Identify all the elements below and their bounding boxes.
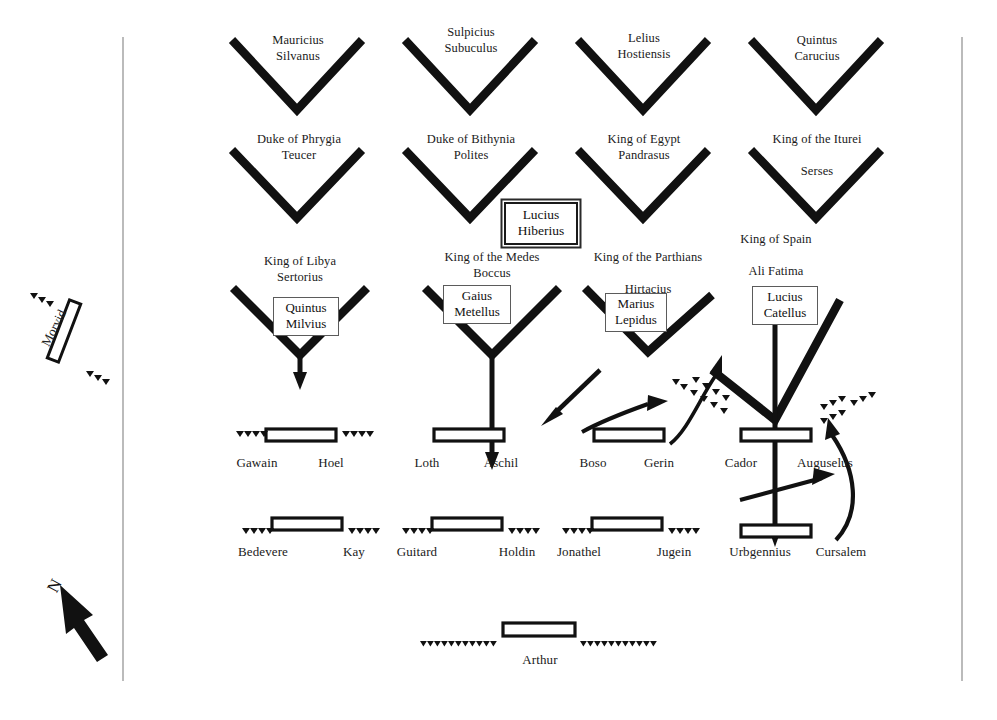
unit-label-guitard: Guitard (382, 544, 452, 560)
unit-label-boso: Boso (564, 455, 622, 471)
unit-label-arthur: Arthur (505, 652, 575, 668)
british-unit-boxes-row2 (272, 518, 811, 537)
unit-label-jonathel: Jonathel (540, 544, 618, 560)
legion-label-mauricius: Mauricius Silvanus (252, 32, 344, 64)
unit-label-holdin: Holdin (486, 544, 548, 560)
supreme-commander-box: Lucius Hiberius (504, 202, 578, 245)
commander-box-catellus: Lucius Catellus (752, 286, 818, 325)
legion-label-iturei: King of the Iturei Serses (752, 131, 882, 179)
legion-label-libya: King of Libya Sertorius (238, 253, 362, 285)
unit-label-bedevere: Bedevere (222, 544, 304, 560)
unit-label-cador: Cador (710, 455, 772, 471)
legion-label-parthians: King of the Parthians Hirtacius (578, 249, 718, 297)
compass-arrow (60, 585, 108, 662)
legion-label-egypt: King of Egypt Pandrasus (582, 131, 706, 163)
unit-label-cursalem: Cursalem (800, 544, 882, 560)
unit-label-kay: Kay (330, 544, 378, 560)
legion-label-bithynia: Duke of Bithynia Polites (409, 131, 533, 163)
commander-box-lepidus: Marius Lepidus (605, 293, 667, 332)
unit-label-gerin: Gerin (630, 455, 688, 471)
legion-label-phrygia: Duke of Phrygia Teucer (237, 131, 361, 163)
legion-label-lelius: Lelius Hostiensis (598, 30, 690, 62)
legion-label-spain: King of Spain Ali Fatima (712, 231, 840, 279)
attack-arrow-milvius (293, 352, 307, 390)
counterattack-arrow-cursalem (740, 468, 835, 500)
battle-diagram: Mauricius Silvanus Sulpicius Subuculus L… (0, 0, 997, 720)
attack-arrow-lepidus (541, 370, 600, 426)
unit-label-hoel: Hoel (302, 455, 360, 471)
legion-label-medes: King of the Medes Boccus (430, 249, 554, 281)
attack-arrow-catellus (768, 300, 782, 547)
commander-box-milvius: Quintus Milvius (273, 297, 339, 336)
british-unit-box-reserve (503, 623, 575, 636)
counterattack-arrow-boso (582, 395, 668, 432)
unit-label-jugein: Jugein (644, 544, 704, 560)
unit-label-auguselus: Auguselus (785, 455, 865, 471)
attack-arrow-metellus (485, 352, 499, 470)
unit-label-gawain: Gawain (223, 455, 291, 471)
unit-label-loth: Loth (398, 455, 456, 471)
counterattack-arrow-gerin (670, 355, 722, 444)
unit-label-aschil: Aschil (470, 455, 532, 471)
commander-box-metellus: Gaius Metellus (443, 285, 511, 324)
legion-label-sulpicius: Sulpicius Subuculus (425, 24, 517, 56)
legion-label-quintus-carucius: Quintus Carucius (771, 32, 863, 64)
british-unit-boxes-row1 (266, 429, 811, 441)
counterattack-arrow-auguselus (825, 418, 853, 540)
unit-label-urbgennius: Urbgennius (712, 544, 808, 560)
diagram-graphics-layer (0, 0, 997, 720)
